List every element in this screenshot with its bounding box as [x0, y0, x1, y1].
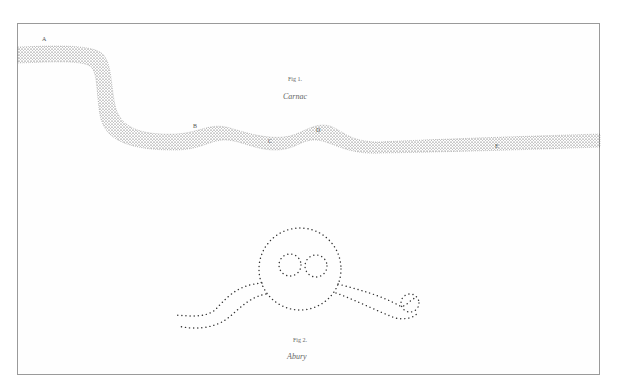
abury-inner-circle-right — [305, 255, 327, 277]
point-label-b: B — [193, 123, 197, 129]
fig2-title: Abury — [287, 352, 307, 361]
point-label-a: A — [42, 36, 46, 42]
abury-avenue-west-upper — [175, 283, 262, 316]
carnac-band — [18, 46, 600, 153]
abury-stone-circles — [175, 228, 419, 328]
point-label-c: C — [268, 138, 272, 144]
point-label-e: E — [495, 143, 499, 149]
fig1-title: Carnac — [283, 92, 307, 101]
abury-inner-circle-left — [279, 254, 301, 276]
abury-avenue-east-upper — [338, 284, 415, 306]
abury-avenue-west-lower — [178, 294, 266, 328]
fig1-caption: Fig 1. — [288, 76, 302, 82]
figures-canvas — [0, 0, 617, 385]
abury-avenue-east-end-circle — [401, 294, 419, 312]
carnac-stone-rows — [18, 46, 600, 153]
point-label-d: D — [316, 127, 320, 133]
fig2-caption: Fig 2. — [293, 337, 307, 343]
abury-avenue-east-lower — [336, 293, 418, 319]
